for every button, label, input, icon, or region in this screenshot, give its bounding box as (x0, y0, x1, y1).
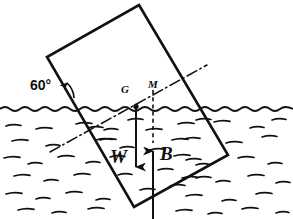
point-G-label: G (121, 84, 129, 95)
buoyancy-label: B (160, 144, 173, 163)
point-M-label: M (148, 79, 158, 90)
diagram-canvas (0, 0, 293, 219)
angle-label: 60° (30, 78, 51, 92)
floating-body-diagram: 60° G M W B (0, 0, 293, 219)
weight-label: W (110, 147, 127, 166)
point-G-marker (133, 104, 138, 109)
waterline (0, 107, 293, 111)
